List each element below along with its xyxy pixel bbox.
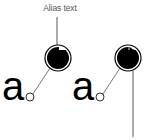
zoom-source-circle-right bbox=[96, 93, 104, 101]
diagram-canvas: Alias text a a bbox=[0, 0, 147, 140]
zoom-connector-right bbox=[103, 68, 120, 94]
magnifier-left bbox=[45, 45, 71, 71]
diagram-svg: a a bbox=[0, 0, 147, 140]
aliased-sample: a bbox=[2, 45, 71, 108]
zoom-source-circle-left bbox=[26, 93, 34, 101]
glyph-a-right: a bbox=[72, 64, 95, 108]
glyph-a-left: a bbox=[2, 64, 25, 108]
zoom-connector-left bbox=[33, 68, 50, 94]
antialiased-sample: a bbox=[72, 45, 141, 137]
magnifier-right bbox=[115, 45, 141, 71]
